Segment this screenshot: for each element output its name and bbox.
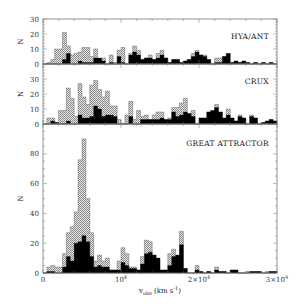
y-tick-label: 30 <box>30 16 39 24</box>
histogram-panels: 0102030NHYA/ANT0102030NCRUX020406080NGRE… <box>17 16 277 278</box>
y-tick-label: 10 <box>30 106 39 114</box>
y-tick-label: 0 <box>35 61 39 69</box>
y-tick-label: 60 <box>30 180 39 188</box>
y-tick-label: 40 <box>30 210 39 218</box>
y-tick-label: 20 <box>30 31 39 39</box>
y-tick-label: 20 <box>30 91 39 99</box>
histogram-figure: 0102030NHYA/ANT0102030NCRUX020406080NGRE… <box>0 0 301 306</box>
y-tick-label: 80 <box>30 150 39 158</box>
y-axis-label: N <box>17 91 25 97</box>
y-axis-label: N <box>17 195 25 201</box>
y-tick-label: 0 <box>35 270 39 278</box>
panel-title: GREAT ATTRACTOR <box>186 139 269 148</box>
y-tick-label: 10 <box>30 46 39 54</box>
y-tick-label: 30 <box>30 76 39 84</box>
panel-title: HYA/ANT <box>231 32 269 41</box>
panel-crux: 0102030NCRUX <box>17 64 277 129</box>
panel-hya-ant: 0102030NHYA/ANT <box>17 16 277 69</box>
x-tick-label: 0 <box>41 276 45 284</box>
panel-title: CRUX <box>245 77 270 86</box>
axes: 01042×1043×104vobs (km s-1) <box>41 274 288 296</box>
y-axis-label: N <box>17 38 25 44</box>
x-axis-label: vobs (km s-1) <box>138 285 181 296</box>
panel-great-attractor: 020406080NGREAT ATTRACTOR <box>17 124 277 278</box>
y-tick-label: 0 <box>35 121 39 129</box>
x-tick-label: 3×104 <box>266 274 288 284</box>
x-tick-label: 2×104 <box>188 274 210 284</box>
x-tick-label: 104 <box>115 274 127 284</box>
y-tick-label: 20 <box>30 240 39 248</box>
